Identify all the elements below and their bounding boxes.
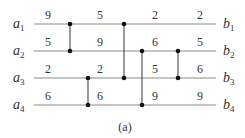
value-w3-s3: 6	[197, 62, 203, 76]
wires	[34, 24, 216, 105]
value-w3-s1: 2	[97, 62, 103, 76]
value-w4-s1: 6	[97, 89, 103, 103]
value-w2-s2: 6	[152, 35, 158, 49]
value-w1-s1: 5	[97, 8, 103, 22]
value-w1-s2: 2	[152, 8, 158, 22]
output-labels: b1 b2 b3 b4	[223, 16, 235, 114]
output-label-b3: b3	[223, 70, 235, 87]
figure-caption: (a)	[118, 120, 131, 134]
comparators	[68, 22, 181, 108]
value-w3-s2: 5	[152, 62, 158, 76]
value-w3-s0: 2	[45, 62, 51, 76]
comparator-2-3	[176, 49, 181, 81]
value-w1-s0: 9	[45, 8, 51, 22]
input-label-a4: a4	[13, 97, 25, 114]
value-w4-s3: 9	[197, 89, 203, 103]
output-label-b2: b2	[223, 43, 235, 60]
value-w1-s3: 2	[197, 8, 203, 22]
value-w4-s2: 9	[152, 89, 158, 103]
input-label-a3: a3	[13, 70, 25, 87]
output-label-b4: b4	[223, 97, 235, 114]
value-w4-s0: 6	[45, 89, 51, 103]
value-w2-s0: 5	[45, 35, 51, 49]
comparator-3-4	[86, 76, 91, 108]
input-labels: a1 a2 a3 a4	[13, 16, 25, 114]
output-label-b1: b1	[223, 16, 235, 33]
sorting-network-diagram: a1 a2 a3 a4 b1 b2 b3 b4 9 5 2 2 5 9 6 5 …	[0, 0, 245, 138]
value-w2-s3: 5	[197, 35, 203, 49]
comparator-1-2	[68, 22, 73, 54]
input-label-a2: a2	[13, 43, 25, 60]
input-label-a1: a1	[13, 16, 25, 33]
value-w2-s1: 9	[97, 35, 103, 49]
